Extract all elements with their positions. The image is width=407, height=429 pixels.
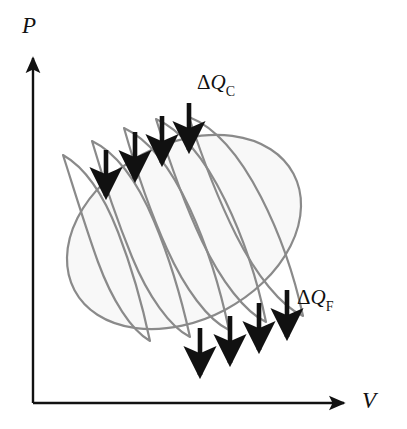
hot-heat-label: ΔQC [197, 72, 235, 97]
cold-heat-subscript: F [326, 299, 334, 314]
outer-cycle-curve [33, 96, 335, 368]
diagram-canvas [0, 0, 407, 429]
cold-heat-delta-symbol: Δ [297, 285, 311, 309]
hot-heat-delta-symbol: Δ [197, 70, 211, 94]
cold-heat-label: ΔQF [297, 287, 333, 312]
hot-heat-subscript: C [226, 84, 235, 99]
cold-heat-quantity-symbol: Q [311, 285, 326, 309]
x-axis-label: V [362, 389, 376, 412]
hot-heat-quantity-symbol: Q [211, 70, 226, 94]
y-axis-label: P [22, 14, 36, 37]
pv-diagram-figure: P V ΔQC ΔQF [0, 0, 407, 429]
